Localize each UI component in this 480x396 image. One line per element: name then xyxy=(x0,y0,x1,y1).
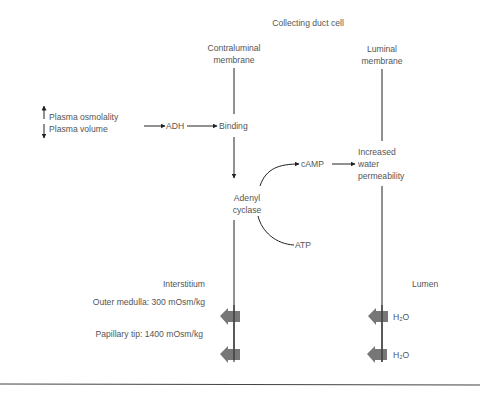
adh-label: ADH xyxy=(166,121,184,131)
luminal-label-2: membrane xyxy=(361,56,402,66)
luminal-label-1: Luminal xyxy=(367,44,397,54)
lumen-label: Lumen xyxy=(412,279,438,289)
atp-curve xyxy=(258,216,294,245)
adh-mechanism-diagram: Collecting duct cell Contraluminal membr… xyxy=(0,0,480,396)
title-label: Collecting duct cell xyxy=(272,18,344,28)
plasma-osmolality-label: Plasma osmolality xyxy=(49,112,119,122)
plasma-volume-label: Plasma volume xyxy=(49,124,108,134)
water-flow-arrow-icon xyxy=(220,346,240,363)
water-flow-arrow-icon xyxy=(367,346,387,363)
interstitium-label: Interstitium xyxy=(163,279,205,289)
camp-label: cAMP xyxy=(301,159,324,169)
binding-label: Binding xyxy=(219,121,248,131)
adenyl-label-1: Adenyl xyxy=(234,193,260,203)
permeability-label-2: water xyxy=(357,159,379,169)
permeability-label-3: permeability xyxy=(358,171,405,181)
adenyl-label-2: cyclase xyxy=(233,205,262,215)
water-flow-arrow-icon xyxy=(368,308,388,325)
water-label-2: H₂O xyxy=(393,350,410,360)
contraluminal-label-2: membrane xyxy=(213,55,254,65)
cyclase-to-camp-arrow xyxy=(260,164,299,186)
permeability-label-1: Increased xyxy=(358,147,396,157)
outer-medulla-label: Outer medulla: 300 mOsm/kg xyxy=(93,297,205,307)
atp-label: ATP xyxy=(295,240,311,250)
papillary-tip-label: Papillary tip: 1400 mOsm/kg xyxy=(96,329,204,339)
water-flow-arrow-icon xyxy=(220,308,240,325)
water-label-1: H₂O xyxy=(393,312,410,322)
diagram-canvas: Collecting duct cell Contraluminal membr… xyxy=(0,0,480,396)
bottom-divider xyxy=(0,384,480,385)
contraluminal-label-1: Contraluminal xyxy=(207,43,260,53)
